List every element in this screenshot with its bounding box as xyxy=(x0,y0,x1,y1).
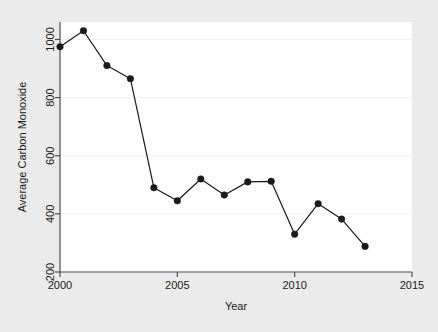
y-tick-label: 400 xyxy=(44,205,56,223)
x-tick-label: 2015 xyxy=(400,279,424,291)
data-point xyxy=(315,200,322,207)
data-point xyxy=(221,192,228,199)
data-point xyxy=(151,184,158,191)
data-point xyxy=(291,231,298,238)
data-point xyxy=(127,75,134,82)
data-point xyxy=(244,179,251,186)
y-tick-label: 600 xyxy=(44,147,56,165)
data-point xyxy=(174,197,181,204)
line-chart: 2004006008001000 2000200520102015 Averag… xyxy=(0,0,438,332)
x-axis-title: Year xyxy=(225,300,248,312)
data-point xyxy=(338,216,345,223)
data-point xyxy=(80,27,87,34)
data-point xyxy=(362,243,369,250)
y-axis-title: Average Carbon Monoxide xyxy=(16,82,28,213)
x-tick-label: 2005 xyxy=(165,279,189,291)
x-tick-label: 2000 xyxy=(48,279,72,291)
data-point xyxy=(268,178,275,185)
y-tick-label: 1000 xyxy=(44,27,56,51)
data-point xyxy=(198,176,205,183)
data-point xyxy=(57,43,64,50)
plot-area-background xyxy=(60,22,412,272)
y-tick-label: 800 xyxy=(44,88,56,106)
data-point xyxy=(104,62,111,69)
x-tick-label: 2010 xyxy=(282,279,306,291)
chart-figure: 2004006008001000 2000200520102015 Averag… xyxy=(0,0,438,332)
